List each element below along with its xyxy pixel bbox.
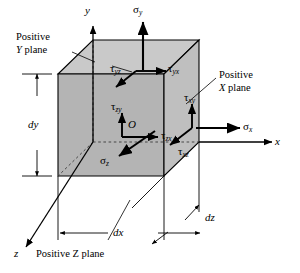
tau-xz-label: τxz: [178, 146, 189, 159]
dy-label: dy: [28, 119, 38, 130]
tau-yz-label: τyz: [110, 63, 121, 76]
tau-zy-label: τzy: [111, 101, 122, 114]
origin-label: O: [128, 119, 136, 130]
positive-x-plane-line2: X plane: [219, 83, 253, 94]
dimension-dx: [58, 176, 200, 240]
positive-x-plane-line1: Positive: [219, 70, 253, 81]
stress-element-figure: y x z O σy σx σz τyz τyx τzy τzx τxy τxz…: [0, 0, 300, 273]
positive-y-plane-callout: Positive Y plane: [16, 32, 50, 55]
tau-zx-label: τzx: [161, 130, 172, 143]
z-axis-label: z: [14, 248, 18, 259]
positive-x-plane-callout: Positive X plane: [219, 70, 253, 93]
dz-label: dz: [205, 212, 215, 223]
tau-yx-label: τyx: [168, 63, 179, 76]
positive-y-plane-line2: Y plane: [16, 45, 50, 56]
positive-z-plane-pre: Positive Z: [36, 248, 79, 259]
positive-z-plane-post: plane: [79, 248, 104, 259]
sigma-z-label: σz: [100, 155, 109, 168]
sigma-y-label: σy: [133, 4, 142, 17]
positive-z-plane-callout: Positive Z plane: [36, 249, 104, 260]
dx-label: dx: [113, 227, 123, 238]
y-axis-label: y: [85, 5, 90, 16]
positive-y-plane-line1: Positive: [16, 32, 50, 43]
sigma-x-label: σx: [243, 121, 252, 134]
x-axis-label: x: [275, 136, 280, 147]
tau-xy-label: τxy: [184, 92, 195, 105]
